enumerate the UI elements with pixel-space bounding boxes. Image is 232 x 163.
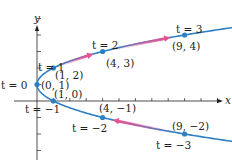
coord-label-4-3: (4, 3) <box>106 57 134 69</box>
t-label-0: t = 0 <box>1 79 27 91</box>
curve-point <box>182 131 187 136</box>
parametric-curve-diagram: y x t = 3 t = 2 t = 1 t = 0 t = −1 t = −… <box>0 0 232 163</box>
coord-label-9-neg2: (9, −2) <box>172 120 209 132</box>
t-label-neg2: t = −2 <box>72 122 107 134</box>
coord-label-1-0: (1, 0) <box>54 88 82 100</box>
direction-arrow-icon <box>112 117 171 135</box>
curve-point <box>100 115 105 120</box>
t-label-2: t = 2 <box>92 39 118 51</box>
t-label-neg1: t = −1 <box>25 103 60 115</box>
coord-label-4-neg1: (4, −1) <box>99 102 136 114</box>
x-axis-label: x <box>225 94 231 106</box>
direction-arrow-icon <box>112 34 171 52</box>
curve-point <box>34 82 39 87</box>
y-axis-label: y <box>33 12 41 24</box>
y-axis-arrowhead-icon <box>35 25 39 31</box>
t-label-neg3: t = −3 <box>156 139 191 151</box>
coord-label-9-4: (9, 4) <box>172 40 200 52</box>
t-label-3: t = 3 <box>176 23 202 35</box>
x-axis-arrowhead-icon <box>217 99 223 103</box>
